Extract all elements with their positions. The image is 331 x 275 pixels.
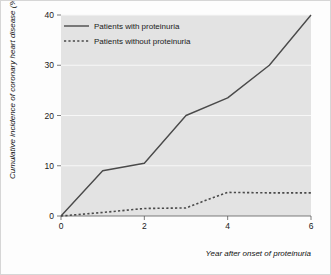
x-tick-label: 4 [225,221,230,231]
y-tick-label: 40 [45,10,55,20]
y-tick-label: 30 [45,60,55,70]
x-tick-label: 0 [59,221,64,231]
legend-label-patients-without-proteinuria: Patients without proteinuria [94,37,191,46]
x-axis-tick-labels: 0246 [59,216,314,231]
x-axis-title: Year after onset of proteinuria [206,249,312,258]
chart-figure: 010203040 0246 Patients with proteinuria… [0,0,331,275]
legend-label-patients-with-proteinuria: Patients with proteinuria [94,22,180,31]
x-tick-label: 2 [142,221,147,231]
x-tick-label: 6 [309,221,314,231]
chart-canvas: 010203040 0246 Patients with proteinuria… [1,1,331,275]
y-axis-tick-labels: 010203040 [45,10,61,221]
y-axis-title: Cumulative incidence of coronary heart d… [8,1,17,179]
y-tick-label: 20 [45,111,55,121]
y-tick-label: 10 [45,161,55,171]
y-tick-label: 0 [49,211,54,221]
